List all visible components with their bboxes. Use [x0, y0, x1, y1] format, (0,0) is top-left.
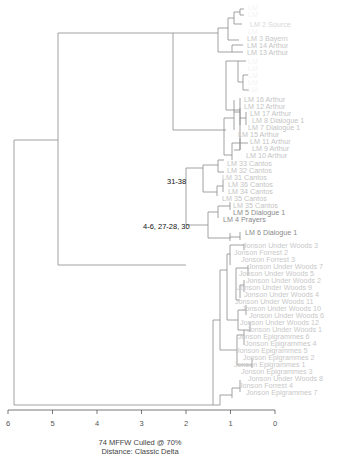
dendrogram-branches [14, 9, 252, 405]
leaf-label: Jonson Epigrammes 7 [246, 388, 318, 397]
caption-line-2: Distance: Classic Delta [0, 447, 280, 456]
svg-text:6: 6 [6, 419, 10, 428]
annotation-31-38: 31-38 [167, 177, 186, 186]
x-axis [8, 410, 275, 414]
x-axis-tick-labels: 6 5 4 3 2 1 0 [6, 419, 277, 428]
svg-text:5: 5 [50, 419, 54, 428]
svg-text:0: 0 [273, 419, 277, 428]
svg-text:4: 4 [95, 419, 99, 428]
leaf-label: LM 13 Arthur [247, 48, 289, 57]
leaf-label: LM 6 Dialogue 1 [245, 228, 297, 237]
svg-text:3: 3 [139, 419, 143, 428]
leaf-label: LM [248, 85, 258, 94]
leaf-labels: LMLMLM 2 SourceLMLM 3 BayernLM 14 Arthur… [222, 3, 324, 397]
caption-line-1: 74 MFFW Culled @ 70% [0, 438, 280, 447]
annotation-4-6-27-28-30: 4-6, 27-28, 30 [143, 222, 190, 231]
svg-text:2: 2 [184, 419, 188, 428]
leaf-label: LM 4 Prayers [223, 215, 266, 224]
svg-text:1: 1 [228, 419, 232, 428]
dendrogram-chart: LMLMLM 2 SourceLMLM 3 BayernLM 14 Arthur… [0, 0, 357, 463]
leaf-label: LM [248, 10, 258, 19]
